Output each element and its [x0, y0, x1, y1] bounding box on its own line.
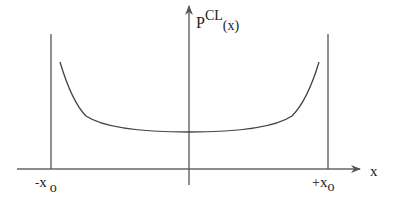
diagram-svg: PCL(x) x -xo +xo: [0, 0, 397, 203]
right-wall-label: +xo: [312, 174, 334, 194]
left-wall-label: -xo: [35, 174, 57, 195]
y-axis-label: PCL(x): [196, 8, 239, 34]
x-axis-label: x: [370, 163, 378, 179]
diagram-canvas: PCL(x) x -xo +xo: [0, 0, 397, 203]
